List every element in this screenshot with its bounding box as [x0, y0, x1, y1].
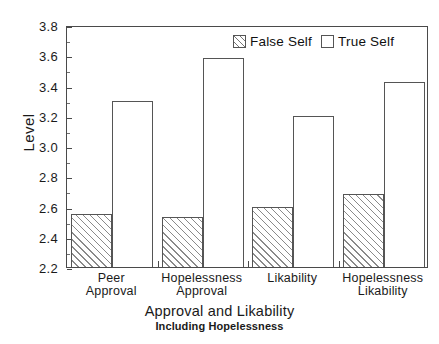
y-axis-tick-label: 2.2: [39, 261, 58, 276]
x-axis-tick-label: HopelessnessApproval: [157, 272, 248, 298]
y-axis-tick-label: 2.6: [39, 200, 58, 215]
y-axis-tick-label: 2.4: [39, 230, 58, 245]
x-axis-subtitle: Including Hopelessness: [0, 320, 439, 332]
plot-area: [66, 26, 428, 268]
y-axis-tick: [67, 118, 72, 119]
y-axis-minor-tick: [67, 163, 70, 164]
bar: [203, 58, 244, 267]
y-axis-tick-label: 2.8: [39, 170, 58, 185]
x-axis-tick-label-line1: Peer: [98, 271, 125, 285]
x-axis-tick: [158, 261, 159, 267]
y-axis-tick: [67, 57, 72, 58]
legend-item-label: False Self: [250, 34, 312, 49]
bar: [162, 217, 203, 267]
y-axis-minor-tick: [67, 103, 70, 104]
x-axis-tick-label-line2: Approval: [66, 285, 157, 298]
y-axis-minor-tick: [67, 133, 70, 134]
y-axis-minor-tick: [67, 193, 70, 194]
x-axis-tick-label: PeerApproval: [66, 272, 157, 298]
legend-item-true-self: True Self: [321, 34, 394, 49]
y-axis-minor-tick: [67, 72, 70, 73]
y-axis-tick: [67, 148, 72, 149]
x-axis-tick: [339, 261, 340, 267]
y-axis-minor-tick: [67, 254, 70, 255]
legend-item-false-self: False Self: [233, 34, 312, 49]
x-axis-tick-label-line2: Likability: [338, 285, 429, 298]
chart-legend: False Self True Self: [233, 34, 394, 49]
x-axis-tick-label: HopelessnessLikability: [338, 272, 429, 298]
x-axis-tick-label-line1: Hopelessness: [161, 271, 242, 285]
bar: [252, 207, 293, 268]
chart-figure: Level 2.22.42.62.83.03.23.43.63.8 PeerAp…: [0, 0, 439, 344]
x-axis-tick-label-line1: Hopelessness: [342, 271, 423, 285]
y-axis-tick-label: 3.0: [39, 140, 58, 155]
legend-item-label: True Self: [338, 34, 394, 49]
y-axis-tick: [67, 209, 72, 210]
hatched-swatch-icon: [233, 35, 246, 48]
bar: [384, 82, 425, 267]
y-axis-tick-labels: 2.22.42.62.83.03.23.43.63.8: [0, 0, 66, 344]
y-axis-tick: [67, 27, 72, 28]
y-axis-minor-tick: [67, 224, 70, 225]
y-axis-minor-tick: [67, 42, 70, 43]
bar: [112, 101, 153, 267]
y-axis-tick: [67, 88, 72, 89]
y-axis-tick: [67, 269, 72, 270]
y-axis-tick-label: 3.8: [39, 19, 58, 34]
y-axis-tick-label: 3.4: [39, 79, 58, 94]
empty-swatch-icon: [321, 35, 334, 48]
bar: [293, 116, 334, 267]
y-axis-tick-label: 3.2: [39, 109, 58, 124]
bar: [71, 214, 112, 267]
bar: [343, 194, 384, 267]
y-axis-tick: [67, 178, 72, 179]
y-axis-tick-label: 3.6: [39, 49, 58, 64]
x-axis-tick-label: Likability: [247, 272, 338, 285]
x-axis-tick-label-line2: Approval: [157, 285, 248, 298]
x-axis-tick-label-line1: Likability: [267, 271, 317, 285]
x-axis-tick: [248, 261, 249, 267]
x-axis-title: Approval and Likability: [0, 303, 439, 319]
